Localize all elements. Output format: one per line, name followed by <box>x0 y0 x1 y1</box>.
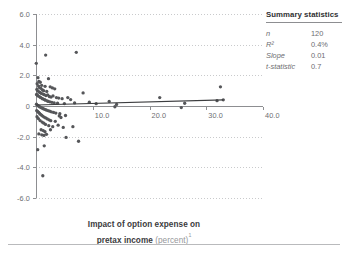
data-point <box>57 96 60 99</box>
data-point <box>41 174 44 177</box>
y-axis-tick-label: 6.0 <box>4 10 30 19</box>
footnote-marker: 1 <box>188 232 191 238</box>
data-point <box>36 76 39 79</box>
data-point <box>58 114 61 117</box>
x-axis-title-line1: Impact of option expense on <box>22 216 266 230</box>
summary-statistics-rows: n120R²0.4%Slope0.01t-statistic0.7 <box>266 29 342 73</box>
summary-stat-label: Slope <box>266 51 311 60</box>
summary-stat-label: t-statistic <box>266 62 311 71</box>
data-point <box>35 62 38 65</box>
data-point <box>64 136 67 139</box>
data-point <box>62 126 65 129</box>
data-point <box>37 132 40 135</box>
data-point <box>42 89 45 92</box>
scatter-series <box>35 51 225 178</box>
x-axis-tick-label: 40.0 <box>265 111 280 120</box>
y-axis-tick-label: 0 <box>4 102 30 111</box>
summary-statistics-panel: Summary statistics n120R²0.4%Slope0.01t-… <box>266 10 342 73</box>
data-point <box>75 51 78 54</box>
data-point <box>54 111 57 114</box>
summary-stat-label: n <box>266 29 311 38</box>
data-point <box>43 144 46 147</box>
data-point <box>180 106 183 109</box>
y-axis-tick-label: -2.0 <box>4 133 30 142</box>
summary-stat-value: 0.4% <box>311 40 328 49</box>
summary-stat-row: t-statistic0.7 <box>266 62 342 73</box>
data-point <box>54 120 57 123</box>
data-point <box>77 140 80 143</box>
data-point <box>183 102 186 105</box>
data-point <box>81 91 84 94</box>
y-axis-tick-label: -4.0 <box>4 163 30 172</box>
summary-stat-row: Slope0.01 <box>266 51 342 62</box>
data-point <box>64 114 67 117</box>
x-axis-title-line1-text: Impact of option expense on <box>88 220 200 229</box>
data-point <box>49 128 52 131</box>
data-point <box>60 97 63 100</box>
data-point <box>44 123 47 126</box>
summary-stat-value: 0.01 <box>311 51 325 60</box>
x-axis-title: Impact of option expense on pretax incom… <box>22 216 266 246</box>
y-axis-tick-label: -6.0 <box>4 194 30 203</box>
data-point <box>44 53 47 56</box>
data-point <box>51 125 54 128</box>
x-axis-tick-label: 20.0 <box>152 111 167 120</box>
data-point <box>45 133 48 136</box>
data-point <box>53 87 56 90</box>
data-point <box>43 85 46 88</box>
summary-stat-label: R² <box>266 40 311 49</box>
y-axis-tick-label: 4.0 <box>4 41 30 50</box>
data-point <box>47 77 50 80</box>
data-point <box>36 148 39 151</box>
x-axis-tick-label: 10.0 <box>95 111 110 120</box>
y-axis-tick-label: 2.0 <box>4 71 30 80</box>
summary-stat-value: 120 <box>311 29 323 38</box>
data-point <box>219 85 222 88</box>
summary-stat-row: n120 <box>266 29 342 40</box>
data-point <box>51 94 54 97</box>
data-point <box>69 98 72 101</box>
x-axis-tick-label: 30.0 <box>208 111 223 120</box>
chart-figure: 6.04.02.00-2.0-4.0-6.0 10.020.030.040.0 … <box>0 0 348 254</box>
summary-stat-value: 0.7 <box>311 62 321 71</box>
data-point <box>56 124 59 127</box>
data-point <box>66 96 69 99</box>
data-point <box>47 124 50 127</box>
summary-statistics-rule <box>266 22 342 23</box>
data-point <box>45 90 48 93</box>
data-point <box>49 119 52 122</box>
data-point <box>158 96 161 99</box>
summary-statistics-title: Summary statistics <box>266 10 342 19</box>
data-point <box>71 125 74 128</box>
summary-stat-row: R²0.4% <box>266 40 342 51</box>
bottom-divider <box>8 244 340 245</box>
data-point <box>39 81 42 84</box>
